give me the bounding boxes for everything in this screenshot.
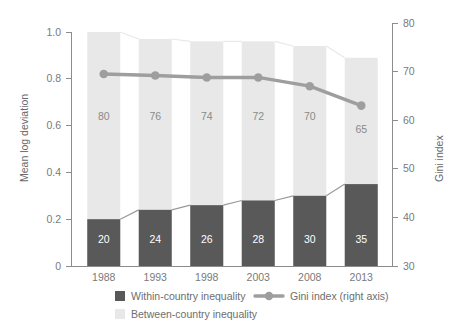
right-tick-label: 40 — [403, 211, 415, 223]
between-country-value: 70 — [304, 110, 316, 122]
left-axis-ticks — [66, 32, 72, 266]
right-tick-label: 30 — [403, 260, 415, 272]
within-country-value: 24 — [149, 233, 161, 245]
gini-marker — [305, 82, 314, 91]
bar-connector — [326, 184, 345, 196]
within-country-value: 20 — [98, 233, 110, 245]
legend-label: Gini index (right axis) — [290, 290, 389, 302]
between-country-value: 80 — [98, 110, 110, 122]
gini-marker — [202, 73, 211, 82]
between-country-bars — [87, 32, 378, 266]
bar-connector — [326, 46, 345, 58]
within-country-value: 30 — [304, 233, 316, 245]
gini-marker — [99, 70, 108, 79]
left-tick-label: 0.8 — [46, 72, 61, 84]
right-tick-label: 80 — [403, 17, 415, 29]
legend-swatch — [115, 291, 125, 301]
within-country-bars — [87, 184, 378, 266]
between-country-value: 65 — [355, 123, 367, 135]
chart-svg: 807674727065 202426283035 00.20.40.60.81… — [0, 0, 461, 332]
bar-connector — [223, 200, 242, 205]
between-country-value: 74 — [201, 110, 213, 122]
y-axis-title-right: Gini index — [433, 135, 445, 182]
bar-connector — [172, 205, 191, 210]
within-country-value: 28 — [252, 233, 264, 245]
within-country-value: 35 — [355, 233, 367, 245]
bar-connector — [275, 41, 294, 46]
chart-legend: Within-country inequalityBetween-country… — [115, 290, 389, 320]
y-axis-title-left: Mean log deviation — [18, 94, 30, 182]
right-tick-label: 70 — [403, 65, 415, 77]
bar-connector — [120, 32, 139, 39]
between-country-value: 76 — [149, 110, 161, 122]
right-axis-ticks — [393, 23, 399, 266]
bar-connector — [275, 196, 294, 201]
left-axis-tick-labels: 00.20.40.60.81.0 — [46, 26, 61, 272]
category-label: 1998 — [195, 271, 219, 283]
left-tick-label: 0.2 — [46, 213, 61, 225]
legend-label: Between-country inequality — [131, 308, 258, 320]
bar-within-segment — [293, 196, 326, 266]
category-label: 2003 — [247, 271, 271, 283]
legend-label: Within-country inequality — [131, 290, 246, 302]
gini-marker — [254, 73, 263, 82]
left-tick-label: 0.4 — [46, 166, 61, 178]
within-country-value-labels: 202426283035 — [98, 233, 367, 245]
left-tick-label: 0.6 — [46, 119, 61, 131]
bar-connector — [120, 210, 139, 219]
gini-marker — [357, 101, 366, 110]
right-tick-label: 60 — [403, 114, 415, 126]
left-tick-label: 1.0 — [46, 26, 61, 38]
legend-marker — [265, 292, 273, 300]
bar-within-segment — [345, 184, 378, 266]
category-label: 1993 — [144, 271, 168, 283]
within-country-value: 26 — [201, 233, 213, 245]
between-country-value: 72 — [252, 110, 264, 122]
category-label: 1988 — [92, 271, 116, 283]
category-label: 2013 — [350, 271, 374, 283]
gini-marker — [151, 71, 160, 80]
right-tick-label: 50 — [403, 162, 415, 174]
between-country-value-labels: 807674727065 — [98, 110, 367, 135]
chart-container: 807674727065 202426283035 00.20.40.60.81… — [0, 0, 461, 332]
right-axis-tick-labels: 304050607080 — [403, 17, 415, 272]
bar-connector — [172, 39, 191, 41]
x-axis-category-labels: 198819931998200320082013 — [92, 271, 373, 283]
legend-swatch — [115, 309, 125, 319]
left-tick-label: 0 — [55, 260, 61, 272]
category-label: 2008 — [298, 271, 322, 283]
